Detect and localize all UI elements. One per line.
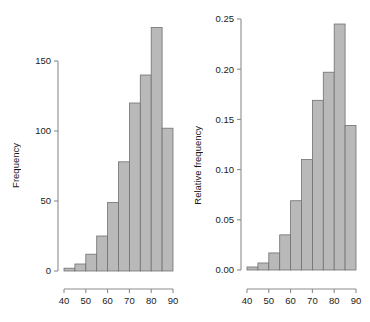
histogram-bar: [258, 263, 269, 270]
x-axis-tick-label: 60: [285, 295, 296, 306]
y-axis-title-relative-frequency: Relative frequency: [190, 100, 204, 230]
histogram-bar: [64, 268, 75, 271]
x-axis-tick-label: 70: [124, 295, 135, 306]
histogram-bar: [247, 267, 258, 270]
x-axis-tick-label: 50: [81, 295, 92, 306]
y-axis-tick-label: 50: [40, 195, 51, 206]
histogram-bar: [312, 100, 323, 270]
histogram-bar: [119, 162, 130, 271]
histogram-bar: [302, 160, 313, 270]
y-axis-tick-label: 0.05: [216, 214, 235, 225]
histogram-bar: [334, 24, 345, 270]
frequency-histogram-plot: 050100150405060708090: [0, 0, 185, 322]
x-axis-tick-label: 40: [242, 295, 253, 306]
histogram-bar: [108, 202, 119, 271]
x-axis-tick-label: 90: [351, 295, 362, 306]
x-axis-tick-label: 70: [307, 295, 318, 306]
frequency-histogram-panel: 050100150405060708090 Frequency: [0, 0, 185, 322]
x-axis-tick-label: 90: [168, 295, 179, 306]
plot-area: 0.000.050.100.150.200.25405060708090: [216, 13, 362, 306]
y-axis-tick-label: 0: [46, 265, 51, 276]
y-axis-title-relative-frequency-text: Relative frequency: [192, 126, 203, 205]
histogram-bar: [129, 103, 140, 271]
histogram-bar: [269, 253, 280, 270]
histogram-bar: [86, 254, 97, 271]
x-axis-tick-label: 80: [146, 295, 157, 306]
histogram-bar: [323, 72, 334, 270]
y-axis-tick-label: 0.15: [216, 114, 235, 125]
histogram-bar: [151, 27, 162, 271]
histogram-bar: [97, 236, 108, 271]
histogram-bar: [291, 201, 302, 270]
x-axis-tick-label: 80: [329, 295, 340, 306]
histogram-bar: [75, 264, 86, 271]
y-axis-tick-label: 0.10: [216, 164, 235, 175]
y-axis-tick-label: 0.20: [216, 64, 235, 75]
y-axis-tick-label: 0.25: [216, 13, 235, 24]
x-axis-tick-label: 50: [264, 295, 275, 306]
plot-area: 050100150405060708090: [35, 27, 178, 306]
y-axis-tick-label: 100: [35, 125, 51, 136]
histogram-figure: 050100150405060708090 Frequency 0.000.05…: [0, 0, 370, 322]
y-axis-tick-label: 0.00: [216, 264, 235, 275]
histogram-bar: [162, 128, 173, 271]
x-axis-tick-label: 60: [102, 295, 113, 306]
histogram-bar: [345, 125, 356, 270]
y-axis-title-frequency: Frequency: [8, 120, 22, 210]
y-axis-title-frequency-text: Frequency: [10, 143, 21, 188]
histogram-bar: [280, 235, 291, 270]
histogram-bar: [140, 75, 151, 271]
relative-frequency-histogram-plot: 0.000.050.100.150.200.25405060708090: [185, 0, 370, 322]
x-axis-tick-label: 40: [59, 295, 70, 306]
relative-frequency-histogram-panel: 0.000.050.100.150.200.25405060708090: [185, 0, 370, 322]
y-axis-tick-label: 150: [35, 55, 51, 66]
